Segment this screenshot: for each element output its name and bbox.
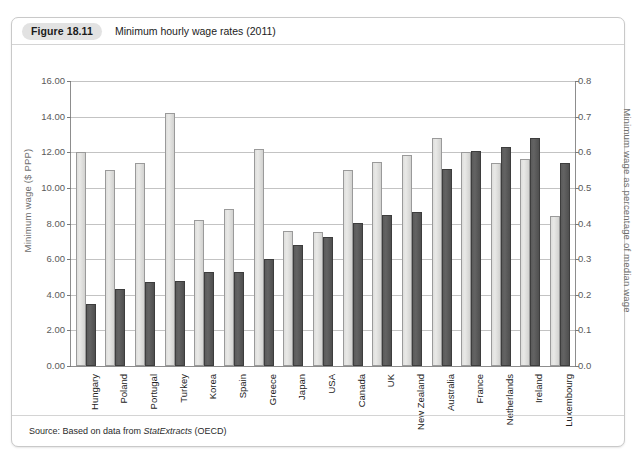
bar-group — [71, 81, 101, 366]
category-label: Canada — [356, 374, 367, 407]
right-tick-mark — [575, 152, 579, 153]
bar-percentage-median-wage — [412, 212, 422, 366]
right-tick-mark — [575, 117, 579, 118]
bar-group — [397, 81, 427, 366]
bar-percentage-median-wage — [501, 147, 511, 366]
right-axis-tick-label: 0.0 — [578, 361, 591, 371]
source-note: Source: Based on data from StatExtracts … — [29, 426, 227, 436]
bar-group — [367, 81, 397, 366]
left-axis-tick-label: 16.00 — [41, 76, 65, 86]
right-tick-mark — [575, 188, 579, 189]
right-tick-mark — [575, 81, 579, 82]
bar-groups — [71, 81, 575, 366]
right-tick-mark — [575, 295, 579, 296]
left-tick-mark — [67, 366, 71, 367]
right-axis-tick-label: 0.2 — [578, 290, 591, 300]
right-axis-tick-label: 0.3 — [578, 254, 591, 264]
right-tick-mark — [575, 366, 579, 367]
bar-minimum-wage — [76, 152, 86, 366]
bar-percentage-median-wage — [234, 272, 244, 366]
bar-minimum-wage — [224, 209, 234, 366]
right-axis-tick-label: 0.6 — [578, 147, 591, 157]
bar-minimum-wage — [194, 220, 204, 366]
bar-group — [278, 81, 308, 366]
bar-group — [338, 81, 368, 366]
bar-percentage-median-wage — [86, 304, 96, 366]
bar-group — [486, 81, 516, 366]
bar-minimum-wage — [432, 138, 442, 366]
bar-group — [160, 81, 190, 366]
bar-minimum-wage — [491, 163, 501, 366]
bar-minimum-wage — [372, 162, 382, 366]
bar-percentage-median-wage — [264, 259, 274, 366]
bar-group — [427, 81, 457, 366]
bar-minimum-wage — [520, 159, 530, 366]
left-axis-tick-label: 2.00 — [47, 325, 66, 335]
left-axis-tick-label: 4.00 — [47, 290, 66, 300]
bar-group — [516, 81, 546, 366]
bar-percentage-median-wage — [204, 272, 214, 366]
category-label: Greece — [267, 374, 278, 405]
bar-percentage-median-wage — [530, 138, 540, 366]
right-axis-tick-label: 0.1 — [578, 325, 591, 335]
right-tick-mark — [575, 259, 579, 260]
right-axis-tick-label: 0.4 — [578, 219, 591, 229]
category-label: France — [474, 374, 485, 404]
right-axis-title: Minimum wage as percentage of median wag… — [622, 96, 633, 326]
figure-card: Figure 18.11 Minimum hourly wage rates (… — [11, 17, 625, 447]
bar-minimum-wage — [313, 232, 323, 366]
bar-minimum-wage — [105, 170, 115, 366]
left-axis-tick-labels: 0.002.004.006.008.0010.0012.0014.0016.00 — [25, 45, 65, 415]
left-axis-tick-label: 14.00 — [41, 112, 65, 122]
bar-minimum-wage — [402, 155, 412, 366]
bar-minimum-wage — [254, 149, 264, 366]
bar-percentage-median-wage — [145, 282, 155, 366]
bar-group — [308, 81, 338, 366]
category-label: Turkey — [178, 374, 189, 403]
left-axis-tick-label: 12.00 — [41, 147, 65, 157]
figure-footer: Source: Based on data from StatExtracts … — [12, 415, 624, 446]
chart-area: Minimum wage ($ PPP) Minimum wage as per… — [12, 45, 624, 415]
category-label: Australia — [445, 374, 456, 411]
bar-group — [101, 81, 131, 366]
category-label: UK — [385, 374, 396, 387]
category-label: Korea — [207, 374, 218, 399]
category-label: Spain — [237, 374, 248, 398]
bar-group — [190, 81, 220, 366]
right-tick-mark — [575, 224, 579, 225]
right-axis-tick-label: 0.5 — [578, 183, 591, 193]
bar-percentage-median-wage — [175, 281, 185, 366]
bar-group — [249, 81, 279, 366]
left-axis-tick-label: 6.00 — [47, 254, 66, 264]
figure-header: Figure 18.11 Minimum hourly wage rates (… — [12, 18, 624, 45]
right-axis-tick-labels: 0.00.10.20.30.40.50.60.70.8 — [578, 45, 608, 415]
bar-percentage-median-wage — [442, 169, 452, 366]
bar-minimum-wage — [343, 170, 353, 366]
bar-percentage-median-wage — [560, 163, 570, 366]
category-label: Japan — [296, 374, 307, 400]
bar-group — [219, 81, 249, 366]
category-label: Poland — [118, 374, 129, 404]
plot-area — [70, 81, 576, 367]
bar-percentage-median-wage — [293, 245, 303, 366]
right-axis-tick-label: 0.8 — [578, 76, 591, 86]
left-axis-tick-label: 10.00 — [41, 183, 65, 193]
figure-number-badge: Figure 18.11 — [22, 23, 102, 40]
bar-minimum-wage — [135, 163, 145, 366]
bar-percentage-median-wage — [471, 151, 481, 366]
bar-minimum-wage — [283, 231, 293, 366]
bar-percentage-median-wage — [353, 223, 363, 366]
category-label: Ireland — [533, 374, 544, 403]
bar-percentage-median-wage — [382, 215, 392, 366]
left-axis-tick-label: 8.00 — [47, 219, 66, 229]
bar-minimum-wage — [461, 152, 471, 366]
bar-group — [130, 81, 160, 366]
source-italic: StatExtracts — [144, 426, 193, 436]
right-tick-mark — [575, 330, 579, 331]
bar-group — [456, 81, 486, 366]
category-label: USA — [326, 374, 337, 394]
category-label: Hungary — [89, 374, 100, 410]
bar-percentage-median-wage — [115, 289, 125, 366]
figure-caption: Minimum hourly wage rates (2011) — [115, 25, 276, 37]
right-axis-tick-label: 0.7 — [578, 112, 591, 122]
